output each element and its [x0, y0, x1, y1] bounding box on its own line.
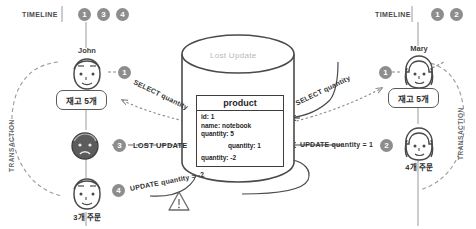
- john-name: John: [66, 46, 108, 55]
- john-update-badge[interactable]: 4: [112, 184, 125, 197]
- john-avatar-icon: [66, 56, 108, 92]
- product-row-id: id: 1: [201, 113, 279, 122]
- database-label: Lost Update: [210, 51, 256, 60]
- mary-update-text: UPDATE quantity = 1: [300, 141, 373, 148]
- lost-update-diagram: Lost Update product id: 1 name: notebook…: [0, 0, 476, 229]
- lost-update-sad-face-icon: [70, 131, 100, 161]
- right-timeline-label: TIMELINE: [375, 11, 411, 18]
- left-timeline-badge-1[interactable]: 1: [78, 8, 91, 21]
- warning-triangle-icon: [167, 190, 191, 212]
- product-row-name: name: notebook: [201, 122, 279, 131]
- right-timeline-badge-1[interactable]: 1: [431, 8, 444, 21]
- john-stock-box: 재고 5개: [56, 90, 107, 110]
- mary-step-badge[interactable]: 1: [379, 66, 392, 79]
- left-timeline-label: TIMELINE: [22, 11, 58, 18]
- product-table: product id: 1 name: notebook quantity: 5…: [196, 95, 284, 167]
- lost-update-label: LOST UPDATE: [133, 141, 188, 150]
- mary-name: Mary: [398, 44, 440, 53]
- product-row-quantity: quantity: 5: [201, 130, 279, 139]
- mary-stock-box: 재고 5개: [388, 88, 439, 108]
- mary-order-label: 4개 주문: [394, 161, 444, 172]
- right-timeline: TIMELINE 1 2: [375, 8, 463, 21]
- product-row-quantity-john: quantity: -2: [201, 150, 279, 163]
- right-transaction-label: TRANSACTION: [457, 107, 464, 160]
- mary-avatar-icon: [400, 54, 438, 92]
- left-timeline-badge-3[interactable]: 3: [97, 8, 110, 21]
- lost-update-badge[interactable]: 3: [113, 139, 126, 152]
- mary-update-badge[interactable]: 2: [380, 139, 393, 152]
- left-timeline: TIMELINE 1 3 4: [22, 8, 129, 21]
- product-table-body: id: 1 name: notebook quantity: 5 quantit…: [197, 111, 283, 166]
- product-table-title: product: [197, 96, 283, 111]
- left-transaction-label: TRANSACTION: [8, 119, 15, 172]
- mary-avatar-bottom-icon: [400, 126, 438, 164]
- left-timeline-badge-4[interactable]: 4: [116, 8, 129, 21]
- john-step-badge[interactable]: 1: [118, 66, 131, 79]
- john-order-label: 3개 주문: [62, 211, 112, 222]
- right-timeline-badge-2[interactable]: 2: [450, 8, 463, 21]
- product-row-quantity-mary: quantity: 1: [201, 139, 279, 151]
- john-avatar-bottom-icon: [66, 176, 108, 212]
